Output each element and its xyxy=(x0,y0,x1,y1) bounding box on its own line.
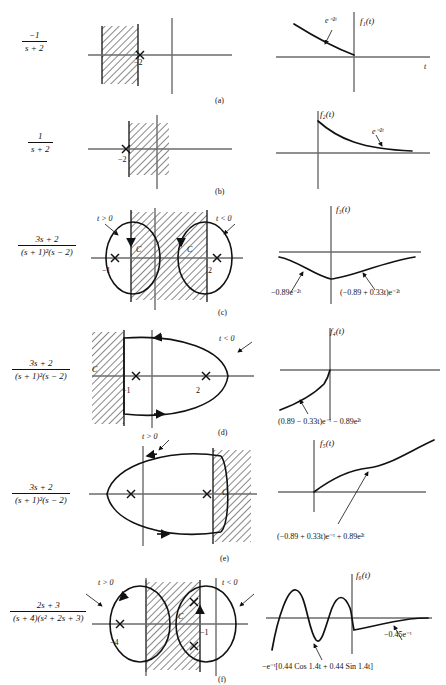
panel-c-arrow-tlt0 xyxy=(224,224,235,234)
panel-f-pole-label-left: −4 xyxy=(110,638,119,647)
panel-e-transfer-function: 3s + 2 (s + 1)²(s − 2) xyxy=(12,482,70,506)
panel-b: 1 s + 2 −2 f₂(t) e⁻²ᵗ (b) xyxy=(0,105,446,197)
panel-f: 2s + 3 (s + 4)(s² + 2s + 3) xyxy=(0,562,446,685)
panel-f-numerator: 2s + 3 xyxy=(34,600,63,611)
panel-c-pole-label-right: 2 xyxy=(208,266,212,275)
panel-f-arrow-tlt0 xyxy=(240,594,254,606)
panel-f-arrow-tgt0 xyxy=(86,594,102,606)
panel-c-annotation-right: (−0.89 + 0.33t)e⁻²ᵗ xyxy=(340,288,400,297)
panel-e-contour-dir-top xyxy=(147,454,157,456)
panel-f-pole-label-right: −1 xyxy=(200,628,209,637)
panel-d-pole-label-left: −1 xyxy=(122,386,131,395)
panel-b-caption: (b) xyxy=(215,187,224,196)
panel-f-denominator: (s + 4)(s² + 2s + 3) xyxy=(10,611,86,623)
panel-d-numerator: 3s + 2 xyxy=(26,358,55,369)
panel-a-transfer-function: −1 s + 2 xyxy=(22,30,47,54)
panel-b-pole-label: −2 xyxy=(118,155,127,164)
panel-b-annotation-arrow xyxy=(376,135,382,146)
figure-laplace-inverse-panels: −1 s + 2 −2 e⁻²ᵗ f₁(t) t (a) xyxy=(0,0,446,685)
panel-e-annotation: (−0.89 + 0.33t)e⁻ᵗ + 0.89e²ᵗ xyxy=(277,532,365,541)
panel-b-time-label: f₂(t) xyxy=(320,109,334,119)
panel-e-numerator: 3s + 2 xyxy=(26,482,55,493)
panel-e-time-plot xyxy=(276,436,446,536)
panel-f-time-plot xyxy=(262,568,446,668)
panel-d-pole-label-right: 2 xyxy=(196,386,200,395)
panel-e-annotation-arrow xyxy=(338,472,368,524)
panel-a-time-label: f₁(t) xyxy=(360,16,374,26)
panel-b-numerator: 1 xyxy=(35,131,46,142)
panel-c-contour-label-positive: t > 0 xyxy=(97,214,113,223)
panel-f-transfer-function: 2s + 3 (s + 4)(s² + 2s + 3) xyxy=(10,600,86,624)
panel-e-roc-region xyxy=(213,450,251,542)
panel-b-denominator: s + 2 xyxy=(28,142,53,154)
panel-f-annotation-left: −e⁻ᵗ[0.44 Cos 1.4t + 0.44 Sin 1.4t] xyxy=(262,662,373,671)
panel-d-annotation-arrow xyxy=(300,400,308,414)
panel-f-caption: (f) xyxy=(218,675,226,684)
panel-c-pole-label-left: −1 xyxy=(102,266,111,275)
panel-f-splane xyxy=(88,572,253,680)
panel-d-transfer-function: 3s + 2 (s + 1)²(s − 2) xyxy=(12,358,70,382)
panel-e-time-label: f₅(t) xyxy=(320,438,334,448)
panel-e-splane xyxy=(85,438,260,550)
panel-c-time-label: f₃(t) xyxy=(336,204,350,214)
panel-f-annotation-arrow-left xyxy=(314,644,322,660)
panel-d-annotation: (0.89 − 0.33t)e⁻ᵗ − 0.89e²ᵗ xyxy=(278,417,361,426)
panel-a-exp-curve xyxy=(294,24,354,55)
panel-c-contour-label-negative: t < 0 xyxy=(216,214,232,223)
panel-d-contour-dir-top xyxy=(154,337,162,338)
panel-a-pole-label: −2 xyxy=(134,58,143,67)
panel-d-contour-name: C xyxy=(92,365,97,374)
panel-e-arrow-tgt0 xyxy=(159,440,169,450)
panel-f-time-label: f₆(t) xyxy=(356,570,370,580)
panel-b-time-plot xyxy=(270,105,440,195)
panel-e: 3s + 2 (s + 1)²(s − 2) t > 0 C xyxy=(0,432,446,560)
panel-a: −1 s + 2 −2 e⁻²ᵗ f₁(t) t (a) xyxy=(0,0,446,100)
panel-d-time-label: f₄(t) xyxy=(330,326,344,336)
panel-f-contour-name: C xyxy=(178,612,183,621)
panel-e-contour-name: C xyxy=(222,488,227,497)
panel-c-annotation-left: −0.89e⁻²ᵗ xyxy=(271,288,301,297)
panel-c: 3s + 2 (s + 1)²(s − 2) t > 0 t < 0 C xyxy=(0,198,446,320)
panel-c-caption: (c) xyxy=(218,308,227,317)
panel-a-curve-label: e⁻²ᵗ xyxy=(325,16,336,25)
panel-a-denominator: s + 2 xyxy=(22,41,47,53)
panel-e-denominator: (s + 1)²(s − 2) xyxy=(12,493,70,505)
panel-a-splane xyxy=(80,8,240,96)
panel-f-annotation-right: −0.45e⁻ᵗ xyxy=(384,630,412,639)
panel-e-contour-label-positive: t > 0 xyxy=(142,432,158,441)
panel-d-response-curve xyxy=(280,370,330,410)
panel-d-contour-label-negative: t < 0 xyxy=(219,334,235,343)
panel-c-roc-region xyxy=(131,212,207,300)
panel-b-exp-curve xyxy=(318,121,412,151)
panel-a-numerator: −1 xyxy=(26,30,43,41)
panel-d-roc-region xyxy=(92,332,124,424)
panel-c-denominator: (s + 1)²(s − 2) xyxy=(18,245,76,257)
panel-a-time-plot xyxy=(270,4,440,94)
panel-c-contour-name-right: C xyxy=(187,245,192,254)
panel-b-splane xyxy=(80,111,240,191)
panel-d-denominator: (s + 1)²(s − 2) xyxy=(12,369,70,381)
panel-d: 3s + 2 (s + 1)²(s − 2) t < 0 C −1 2 xyxy=(0,320,446,440)
panel-a-axis-label: t xyxy=(424,62,426,71)
panel-c-contour-name-left: C xyxy=(136,245,141,254)
panel-c-transfer-function: 3s + 2 (s + 1)²(s − 2) xyxy=(18,234,76,258)
panel-a-caption: (a) xyxy=(215,96,224,105)
panel-c-response-curve xyxy=(279,257,415,279)
panel-b-transfer-function: 1 s + 2 xyxy=(28,131,53,155)
panel-f-contour-label-negative: t < 0 xyxy=(222,578,238,587)
panel-f-contour-label-positive: t > 0 xyxy=(98,578,114,587)
panel-a-annotation-arrow xyxy=(325,30,332,44)
panel-d-time-plot xyxy=(278,324,446,424)
panel-b-curve-label: e⁻²ᵗ xyxy=(372,127,383,136)
panel-d-arrow-tlt0 xyxy=(238,342,252,352)
panel-c-numerator: 3s + 2 xyxy=(32,234,61,245)
panel-f-response-curve xyxy=(272,590,428,650)
